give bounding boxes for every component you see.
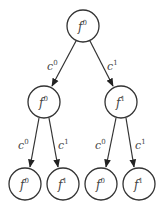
edge-left-to-lr <box>49 118 58 167</box>
node-right: f1 <box>105 86 137 118</box>
node-left: f0 <box>28 86 60 118</box>
edge-label-right-rl: c0 <box>95 138 106 152</box>
edge-right-to-rl <box>106 118 116 167</box>
node-right-right: f1 <box>123 168 155 200</box>
edge-label-root-right: c1 <box>107 59 118 73</box>
edge-label-left-ll: c0 <box>18 138 29 152</box>
node-left-right: f1 <box>47 168 79 200</box>
edge-label-right-rr: c1 <box>135 138 146 152</box>
arrow-icon <box>106 118 116 167</box>
arrow-icon <box>126 118 134 167</box>
arrow-icon <box>49 118 58 167</box>
arrow-icon <box>30 118 39 167</box>
node-root: f0 <box>67 10 99 42</box>
edge-label-root-left: c0 <box>47 59 58 73</box>
node-left-left: f0 <box>9 168 41 200</box>
edge-left-to-ll <box>30 118 39 167</box>
node-right-left: f0 <box>85 168 117 200</box>
edge-right-to-rr <box>126 118 134 167</box>
edge-label-left-lr: c1 <box>58 138 69 152</box>
tree-diagram: c0 c1 c0 c1 c0 c1 f0 f0 f1 f0 f1 f0 f1 <box>0 0 167 214</box>
